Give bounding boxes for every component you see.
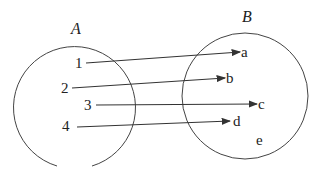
element-4: 4 bbox=[62, 118, 70, 134]
element-b: b bbox=[226, 70, 234, 86]
element-c: c bbox=[258, 96, 265, 112]
element-3: 3 bbox=[84, 97, 92, 113]
element-a: a bbox=[241, 44, 248, 60]
mapping-diagram: A B 1 2 3 4 a b c d e bbox=[0, 0, 323, 173]
arrow-4-to-d bbox=[77, 121, 230, 127]
set-a-label: A bbox=[70, 20, 81, 37]
set-b-label: B bbox=[242, 8, 252, 25]
element-1: 1 bbox=[75, 55, 83, 71]
arrow-2-to-b bbox=[72, 78, 225, 88]
element-2: 2 bbox=[61, 80, 69, 96]
arrow-3-to-c bbox=[96, 104, 257, 105]
element-d: d bbox=[233, 113, 241, 129]
element-e: e bbox=[256, 132, 263, 148]
